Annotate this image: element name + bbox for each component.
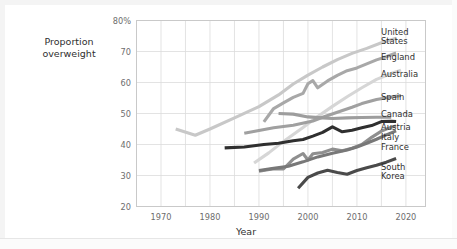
x-tick-label: 1980	[190, 212, 230, 222]
x-tick-label: 2000	[288, 212, 328, 222]
legend-label-south-korea[interactable]: South Korea	[381, 163, 405, 182]
y-tick-label: 50	[103, 109, 131, 119]
series-line-austria	[225, 121, 396, 148]
legend-label-canada[interactable]: Canada	[381, 110, 413, 119]
line-chart: Proportion overweight Year 80%7060504030…	[0, 0, 457, 249]
legend-label-england[interactable]: England	[381, 53, 415, 62]
legend-label-united-states[interactable]: United States	[381, 28, 409, 47]
legend-label-australia[interactable]: Australia	[381, 70, 418, 79]
x-tick-label: 1990	[239, 212, 279, 222]
x-tick-label: 1970	[141, 212, 181, 222]
chart-page: Proportion overweight Year 80%7060504030…	[0, 0, 457, 249]
legend-label-austria[interactable]: Austria	[381, 123, 411, 132]
y-tick-label: 30	[103, 171, 131, 181]
y-tick-label: 70	[103, 47, 131, 57]
x-tick-label: 2020	[386, 212, 426, 222]
legend-label-italy[interactable]: Italy	[381, 133, 399, 142]
x-tick-label: 2010	[337, 212, 377, 222]
y-tick-label: 80%	[103, 16, 131, 26]
x-axis-title: Year	[216, 226, 276, 238]
y-tick-label: 40	[103, 140, 131, 150]
legend-label-spain[interactable]: Spain	[381, 93, 404, 102]
legend-label-france[interactable]: France	[381, 143, 409, 152]
y-axis-title: Proportion overweight	[30, 36, 108, 59]
y-tick-label: 60	[103, 78, 131, 88]
y-tick-label: 20	[103, 202, 131, 212]
